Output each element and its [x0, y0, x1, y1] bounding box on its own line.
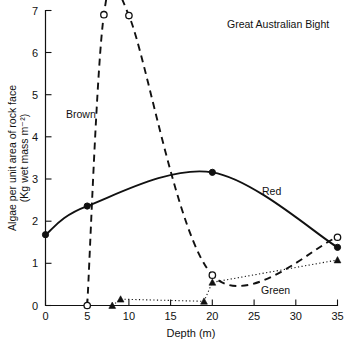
red-marker-filled-circle: [334, 244, 340, 250]
y-axis-title-line2: (Kg wet mass m⁻²): [18, 114, 30, 202]
series-label-red: Red: [262, 185, 281, 197]
brown-marker-open-circle: [101, 12, 107, 18]
y-tick-label: 1: [32, 257, 38, 269]
algae-depth-line-chart: 0 1 2 3 4 5 6 7 0 5 10 15 20 25 30: [0, 0, 358, 341]
red-markers: [42, 169, 340, 250]
red-marker-filled-circle: [84, 203, 90, 209]
y-axis-title-line1: Algae per unit area of rock face: [6, 85, 18, 231]
chart-container: 0 1 2 3 4 5 6 7 0 5 10 15 20 25 30: [0, 0, 358, 341]
x-tick-label: 30: [290, 310, 302, 322]
red-marker-filled-circle: [209, 169, 215, 175]
x-tick-label: 0: [42, 310, 48, 322]
green-marker-triangle: [209, 279, 216, 285]
brown-marker-open-circle: [334, 234, 340, 240]
series-brown: [84, 0, 341, 309]
series-label-green: Green: [261, 284, 290, 296]
series-red: [42, 169, 340, 250]
brown-line: [87, 0, 337, 306]
green-markers: [109, 257, 341, 309]
green-marker-triangle: [117, 296, 124, 302]
brown-marker-open-circle: [209, 272, 215, 278]
x-tick-label: 25: [248, 310, 260, 322]
red-marker-filled-circle: [42, 232, 48, 238]
y-tick-label: 4: [32, 131, 38, 143]
axes-group: [46, 11, 338, 306]
y-tick-label: 6: [32, 47, 38, 59]
y-tick-label: 5: [32, 89, 38, 101]
x-axis-tick-labels: 0 5 10 15 20 25 30 35: [42, 310, 343, 322]
series-label-brown: Brown: [66, 108, 96, 120]
x-tick-label: 35: [331, 310, 343, 322]
y-tick-label: 2: [32, 215, 38, 227]
x-tick-label: 5: [84, 310, 90, 322]
green-marker-triangle: [334, 257, 341, 263]
brown-marker-open-circle: [84, 302, 90, 308]
series-green: [109, 257, 341, 309]
x-tick-label: 15: [164, 310, 176, 322]
brown-markers: [84, 12, 341, 309]
x-tick-label: 20: [206, 310, 218, 322]
y-tick-label: 0: [32, 300, 38, 312]
red-line: [46, 171, 338, 247]
y-tick-label: 3: [32, 173, 38, 185]
x-tick-label: 10: [123, 310, 135, 322]
axis-lines: [46, 11, 338, 306]
y-tick-label: 7: [32, 5, 38, 17]
chart-title: Great Australian Bight: [227, 18, 329, 30]
y-axis-ticks: [46, 11, 52, 306]
brown-marker-open-circle: [126, 12, 132, 18]
y-axis-tick-labels: 0 1 2 3 4 5 6 7: [32, 5, 38, 312]
green-marker-triangle: [201, 298, 208, 304]
x-axis-title: Depth (m): [167, 327, 216, 339]
